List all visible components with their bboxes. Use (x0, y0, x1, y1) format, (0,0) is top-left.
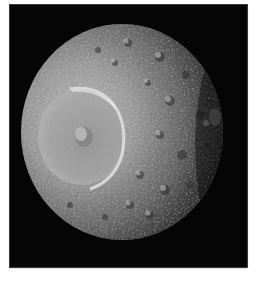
moon-photo-svg (10, 5, 247, 267)
herschel-central-peak (75, 127, 87, 141)
moon-photo (10, 5, 247, 267)
